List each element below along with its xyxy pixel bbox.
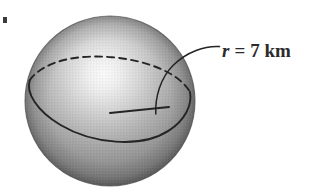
sphere-group	[25, 16, 195, 186]
sphere-radius-figure: r=7 km	[0, 0, 318, 194]
sphere-halftone-texture	[25, 16, 195, 186]
radius-label-variable: r	[222, 40, 230, 61]
radius-label-value: 7 km	[250, 40, 291, 61]
figure-canvas: r=7 km	[0, 0, 318, 194]
scan-artifact-speck	[3, 17, 7, 23]
radius-label: r=7 km	[222, 40, 291, 61]
radius-label-equals: =	[234, 40, 245, 61]
